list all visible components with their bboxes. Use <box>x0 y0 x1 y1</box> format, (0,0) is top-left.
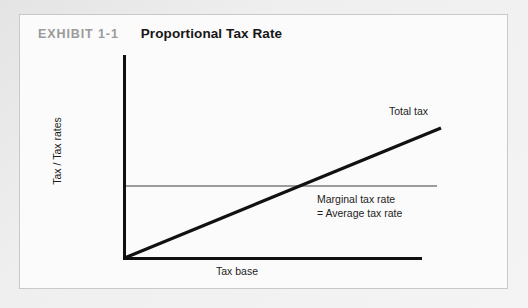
average-tax-rate-label: = Average tax rate <box>317 206 402 220</box>
exhibit-card: EXHIBIT 1-1 Proportional Tax Rate Tax / … <box>19 14 508 289</box>
marginal-tax-rate-label: Marginal tax rate <box>317 193 395 205</box>
x-axis-label: Tax base <box>216 265 258 277</box>
total-tax-line <box>123 55 443 260</box>
tax-rate-annotation: Marginal tax rate = Average tax rate <box>317 192 402 220</box>
chart-plot-area: Tax / Tax rates Tax base Total tax Margi… <box>20 15 509 290</box>
total-tax-series-label: Total tax <box>389 105 428 117</box>
y-axis-label: Tax / Tax rates <box>51 91 63 211</box>
exhibit-figure: EXHIBIT 1-1 Proportional Tax Rate Tax / … <box>0 0 528 308</box>
